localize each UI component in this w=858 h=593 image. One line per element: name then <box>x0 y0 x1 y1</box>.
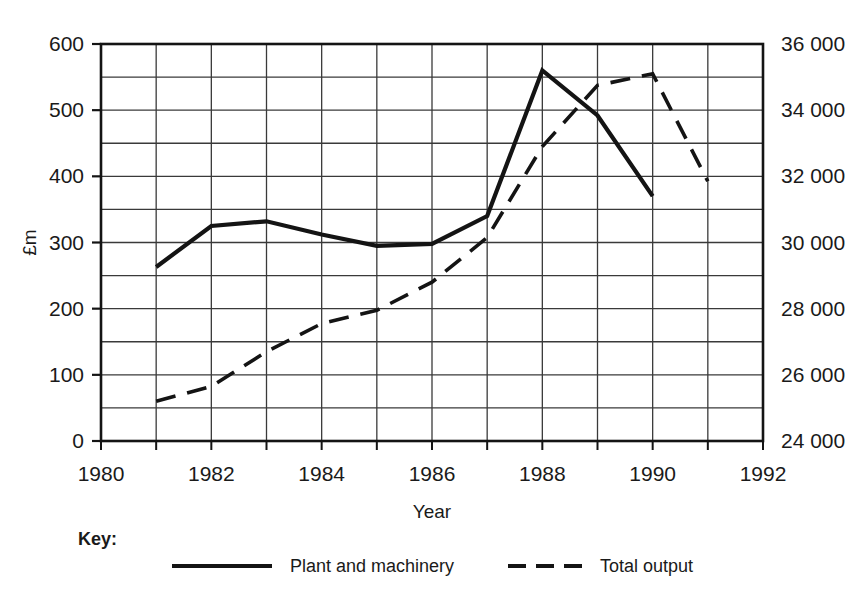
y2-axis-tick-label: 34 000 <box>781 98 845 121</box>
y2-axis-tick-label: 36 000 <box>781 32 845 55</box>
y2-axis-tick-label: 32 000 <box>781 164 845 187</box>
y-axis-tick-label: 0 <box>72 429 84 452</box>
x-axis-tick-label: 1992 <box>740 462 787 485</box>
y-axis-tick-label: 400 <box>49 164 84 187</box>
x-axis-tick-label: 1986 <box>409 462 456 485</box>
y-axis-title: £m <box>19 229 40 255</box>
x-axis-tick-label: 1982 <box>188 462 235 485</box>
y-axis-tick-label: 600 <box>49 32 84 55</box>
y-axis-tick-label: 100 <box>49 363 84 386</box>
y2-axis-tick-label: 28 000 <box>781 297 845 320</box>
y2-axis-tick-label: 30 000 <box>781 231 845 254</box>
x-axis-tick-label: 1980 <box>78 462 125 485</box>
legend-label-total-output: Total output <box>600 556 693 576</box>
chart-figure: 010020030040050060024 00026 00028 00030 … <box>0 0 858 593</box>
x-axis-title: Year <box>413 501 452 522</box>
line-chart: 010020030040050060024 00026 00028 00030 … <box>0 0 858 593</box>
legend-title: Key: <box>78 529 117 549</box>
y2-axis-tick-label: 26 000 <box>781 363 845 386</box>
y2-axis-tick-label: 24 000 <box>781 429 845 452</box>
legend-label-plant-and-machinery: Plant and machinery <box>290 556 454 576</box>
x-axis-tick-label: 1988 <box>519 462 566 485</box>
x-axis-tick-label: 1984 <box>298 462 345 485</box>
y-axis-tick-label: 300 <box>49 231 84 254</box>
y-axis-tick-label: 500 <box>49 98 84 121</box>
x-axis-tick-label: 1990 <box>629 462 676 485</box>
y-axis-tick-label: 200 <box>49 297 84 320</box>
